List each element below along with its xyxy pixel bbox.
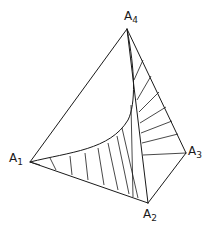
ruling-line (131, 105, 133, 197)
tetrahedron-edges (30, 29, 186, 203)
ruling-line (142, 134, 178, 143)
ruling-line (122, 128, 138, 198)
edge-a1-a4 (30, 29, 127, 162)
tetrahedron-diagram (0, 0, 213, 232)
vertex-label-a3: A3 (188, 145, 202, 160)
vertex-label-a1: A1 (9, 152, 23, 167)
ruling-line (70, 156, 72, 175)
ruling-line (117, 136, 129, 194)
ruling-lines-bottom (30, 105, 138, 198)
ruling-line (50, 158, 56, 170)
ruling-line (137, 76, 151, 100)
ruling-line (139, 92, 159, 112)
ruling-line (85, 153, 88, 180)
ruling-lines-right (134, 60, 186, 155)
vertex-label-a2: A2 (143, 208, 157, 223)
ruling-line (98, 148, 104, 185)
vertex-label-a4: A4 (124, 10, 138, 25)
ruling-line (141, 121, 172, 133)
edge-a2-a3 (148, 153, 186, 203)
ruling-line (30, 162, 40, 165)
ruling-line (143, 153, 186, 155)
ruling-line (108, 143, 118, 190)
ruling-line (134, 60, 143, 80)
edge-a1-a2 (30, 162, 148, 203)
ruling-line (140, 107, 166, 123)
